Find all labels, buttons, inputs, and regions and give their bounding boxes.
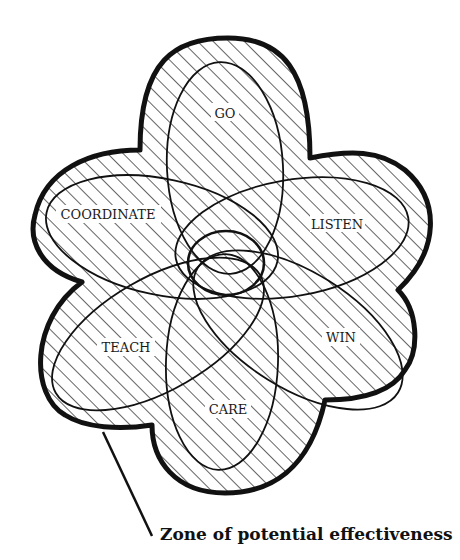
caption-zone: Zone of potential effectiveness: [160, 524, 453, 544]
effectiveness-diagram: GO COORDINATE LISTEN TEACH WIN CARE Zone…: [0, 0, 460, 560]
label-coordinate: COORDINATE: [61, 207, 156, 222]
label-listen: LISTEN: [311, 217, 363, 232]
label-win: WIN: [326, 330, 356, 345]
label-teach: TEACH: [102, 340, 151, 355]
caption-pointer-line: [103, 432, 152, 536]
label-go: GO: [214, 106, 235, 121]
label-care: CARE: [209, 402, 248, 417]
